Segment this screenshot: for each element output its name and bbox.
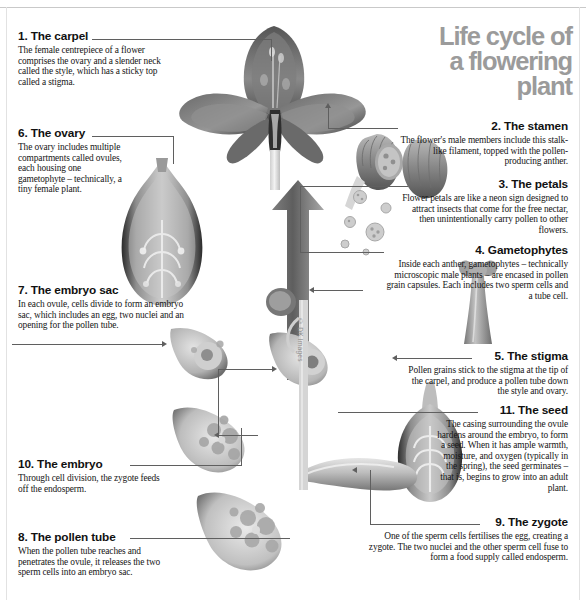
leader-gametophytes [300, 252, 384, 253]
section-carpel: 1. The carpel The female centrepiece of … [18, 30, 168, 87]
section-body: Through cell division, the zygote feeds … [18, 473, 168, 494]
section-zygote: 9. The zygote One of the sperm cells fer… [368, 516, 568, 563]
connector-zygote-to-sac [218, 369, 274, 370]
section-body: The flower's male members include this s… [400, 135, 568, 167]
left-margin-rule [6, 7, 7, 600]
section-stamen: 2. The stamen The flower's male members … [400, 120, 568, 167]
section-heading: 8. The pollen tube [18, 531, 176, 544]
section-body: When the pollen tube reaches and penetra… [18, 546, 176, 578]
section-heading: 4. Gametophytes [386, 244, 568, 257]
connector-seed-to-flower [313, 290, 363, 291]
section-heading: 2. The stamen [400, 120, 568, 133]
connector-zygote-arrow [272, 366, 277, 372]
section-heading: 6. The ovary [18, 127, 126, 140]
section-body: Inside each anther, gametophytes – techn… [386, 259, 568, 301]
section-heading: 9. The zygote [368, 516, 568, 529]
section-petals: 3. The petals Flower petals are like a n… [400, 178, 568, 235]
infographic-canvas: Life cycle of a flowering plant [0, 0, 586, 600]
section-body: The ovary includes multiple compartments… [18, 142, 126, 195]
section-body: The casing surrounding the ovule hardens… [436, 419, 568, 493]
leader-stigma-arrow [392, 355, 397, 361]
section-body: Flower petals are like a neon sign desig… [400, 193, 568, 235]
section-heading: 3. The petals [400, 178, 568, 191]
title-line-2: a flowering [439, 49, 572, 74]
connector-embryo-to-zygote [218, 435, 258, 436]
section-seed: 11. The seed The casing surrounding the … [436, 404, 568, 493]
leader-carpel-v [271, 39, 272, 61]
embryo-illustration [196, 484, 308, 576]
top-divider [0, 7, 586, 8]
leader-embryo-sac-arrow [162, 341, 167, 347]
section-heading: 5. The stigma [400, 350, 568, 363]
connector-embryo-arrow [214, 432, 219, 438]
section-body: In each ovule, cells divide to form an e… [18, 299, 184, 331]
leader-stamen-arrow [325, 103, 331, 108]
leader-embryo-sac [12, 344, 162, 345]
embryo-sac-illustration [264, 286, 304, 320]
leader-petals-v [300, 186, 301, 252]
leader-stamen-v [328, 108, 329, 129]
section-ovary: 6. The ovary The ovary includes multiple… [18, 127, 126, 195]
section-body: The female centrepiece of a flower compr… [18, 45, 168, 87]
title-line-3: plant [439, 74, 572, 99]
title-line-1: Life cycle of [439, 24, 572, 49]
section-heading: 1. The carpel [18, 30, 168, 43]
connector-zygote-v [218, 369, 219, 435]
leader-petals [300, 186, 408, 187]
leader-ovary-v [173, 136, 174, 164]
section-heading: 7. The embryo sac [18, 284, 184, 297]
section-stigma: 5. The stigma Pollen grains stick to the… [400, 350, 568, 397]
section-pollen-tube: 8. The pollen tube When the pollen tube … [18, 531, 176, 578]
copyright-watermark: © DK Images [292, 318, 304, 372]
section-embryo-sac: 7. The embryo sac In each ovule, cells d… [18, 284, 184, 331]
embryo-illustration [172, 400, 268, 478]
leader-zygote-arrow [352, 467, 357, 473]
page-title: Life cycle of a flowering plant [439, 24, 572, 99]
right-margin-rule [579, 7, 580, 600]
connector-seed-arrow [309, 287, 314, 293]
section-heading: 10. The embryo [18, 458, 168, 471]
section-heading: 11. The seed [436, 404, 568, 417]
leader-embryo-v [241, 428, 242, 465]
section-embryo: 10. The embryo Through cell division, th… [18, 458, 168, 494]
section-body: Pollen grains stick to the stigma at the… [400, 365, 568, 397]
section-body: One of the sperm cells fertilises the eg… [368, 531, 568, 563]
leader-stamen [328, 128, 398, 129]
section-gametophytes: 4. Gametophytes Inside each anther, game… [386, 244, 568, 301]
